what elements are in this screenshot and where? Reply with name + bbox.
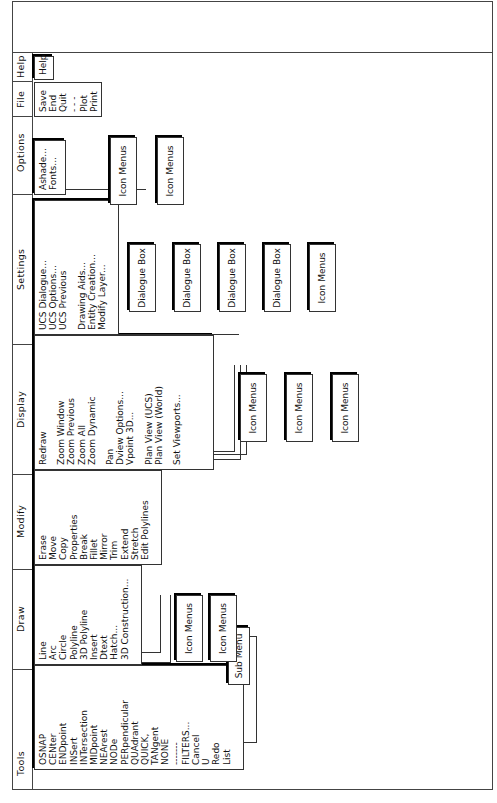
header-divider bbox=[12, 474, 32, 475]
menu-item[interactable]: PERpendicular bbox=[120, 670, 130, 765]
menu-separator: ------- bbox=[171, 670, 181, 765]
menu-hierarchy-diagram: Tools Draw Modify Display Settings Optio… bbox=[12, 0, 494, 790]
menu-item[interactable]: OSNAP bbox=[38, 670, 48, 765]
menu-item[interactable]: CENter bbox=[48, 670, 58, 765]
menu-title-modify[interactable]: Modify bbox=[15, 505, 26, 538]
menu-item[interactable]: Extend bbox=[120, 475, 130, 560]
modify-menu: Erase Move Copy Properties Break Fillet … bbox=[34, 470, 162, 565]
display-icon-menus-box-2[interactable]: Icon Menus bbox=[286, 374, 313, 442]
menu-title-display[interactable]: Display bbox=[15, 391, 26, 428]
menu-item[interactable]: Hatch... bbox=[109, 570, 119, 660]
menu-item[interactable]: Plan View (UCS) bbox=[144, 340, 154, 465]
options-icon-menus-box-1[interactable]: Icon Menus bbox=[110, 137, 137, 205]
connector bbox=[170, 595, 171, 663]
menu-item[interactable]: NODe bbox=[109, 670, 119, 765]
menu-item[interactable]: Print bbox=[89, 87, 99, 112]
menu-item[interactable]: Fonts... bbox=[48, 145, 58, 190]
menu-item[interactable]: 3D Construction... bbox=[120, 570, 130, 660]
menu-title-help[interactable]: Help bbox=[15, 55, 26, 78]
menu-item[interactable]: Insert bbox=[89, 570, 99, 660]
menu-item[interactable]: Mirror bbox=[99, 475, 109, 560]
menu-item[interactable]: Move bbox=[48, 475, 58, 560]
menu-title-settings[interactable]: Settings bbox=[15, 249, 26, 290]
menu-item[interactable]: Cancel bbox=[191, 670, 201, 765]
menu-item[interactable]: Zoom Previous bbox=[66, 340, 76, 465]
connector bbox=[214, 454, 246, 455]
settings-dialogue-box-3[interactable]: Dialogue Box bbox=[219, 244, 246, 312]
menu-item[interactable]: Help bbox=[38, 61, 48, 75]
menu-item[interactable]: Zoom All bbox=[77, 340, 87, 465]
menu-item[interactable]: Stretch bbox=[130, 475, 140, 560]
menu-item[interactable]: Redo bbox=[211, 670, 221, 765]
menu-item[interactable]: Polyline bbox=[69, 570, 79, 660]
menu-item[interactable]: U bbox=[201, 670, 211, 765]
connector bbox=[244, 742, 256, 743]
menu-item[interactable]: TANgent bbox=[150, 670, 160, 765]
top-blank-divider bbox=[12, 52, 493, 53]
menu-item[interactable]: Redraw bbox=[38, 340, 48, 465]
menu-item[interactable]: NONE bbox=[160, 670, 170, 765]
menu-item[interactable]: Plan View (World) bbox=[154, 340, 164, 465]
menu-item[interactable]: Erase bbox=[38, 475, 48, 560]
menu-item[interactable]: Zoom Dynamic bbox=[87, 340, 97, 465]
menu-item[interactable]: UCS Dialogue... bbox=[38, 205, 48, 330]
menu-item[interactable]: MIDpoint bbox=[89, 670, 99, 765]
settings-dialogue-box-1[interactable]: Dialogue Box bbox=[129, 244, 156, 312]
file-menu: Save End Quit - - - Plot Print bbox=[34, 82, 102, 117]
menu-item[interactable]: Properties bbox=[69, 475, 79, 560]
draw-icon-menus-box-2[interactable]: Icon Menus bbox=[210, 595, 237, 662]
options-menu: Ashade... Fonts... bbox=[34, 140, 66, 195]
options-icon-menus-box-2[interactable]: Icon Menus bbox=[157, 137, 184, 205]
menu-item[interactable]: Dtext bbox=[99, 570, 109, 660]
connector bbox=[214, 459, 240, 460]
menu-item[interactable]: ENDpoint bbox=[58, 670, 68, 765]
menu-item[interactable]: Modify Layer... bbox=[97, 205, 107, 330]
menu-item[interactable]: Fillet bbox=[89, 475, 99, 560]
menu-item[interactable]: UCS Options... bbox=[48, 205, 58, 330]
menu-title-options[interactable]: Options bbox=[15, 133, 26, 172]
header-divider bbox=[12, 669, 32, 670]
menu-item[interactable]: Pan bbox=[105, 340, 115, 465]
tools-menu: OSNAP CENter ENDpoint INSert INTersectio… bbox=[34, 665, 244, 770]
menu-item[interactable]: Circle bbox=[58, 570, 68, 660]
settings-icon-menus-box[interactable]: Icon Menus bbox=[309, 244, 336, 312]
display-icon-menus-box-3[interactable]: Icon Menus bbox=[332, 374, 359, 442]
menu-item[interactable]: Arc bbox=[48, 570, 58, 660]
menu-item[interactable]: Dview Options... bbox=[115, 340, 125, 465]
menu-item[interactable]: Trim bbox=[109, 475, 119, 560]
menu-title-file[interactable]: File bbox=[15, 91, 26, 108]
menu-item[interactable]: Save bbox=[38, 87, 48, 112]
menu-item[interactable]: INTersection bbox=[79, 670, 89, 765]
menu-item[interactable]: Zoom Window bbox=[56, 340, 66, 465]
menu-item[interactable]: Plot bbox=[79, 87, 89, 112]
menu-item[interactable]: Quit bbox=[58, 87, 68, 112]
settings-dialogue-box-4[interactable]: Dialogue Box bbox=[264, 244, 291, 312]
header-divider bbox=[12, 344, 32, 345]
menu-item[interactable]: Entity Creation... bbox=[87, 205, 97, 330]
menu-item[interactable]: QUAdrant bbox=[130, 670, 140, 765]
menu-item[interactable]: Copy bbox=[58, 475, 68, 560]
menu-title-draw[interactable]: Draw bbox=[15, 606, 26, 632]
connector bbox=[142, 662, 170, 663]
menu-item[interactable]: FILTERS... bbox=[181, 670, 191, 765]
menu-item[interactable]: Drawing Aids... bbox=[77, 205, 87, 330]
connector bbox=[142, 652, 160, 653]
draw-icon-menus-box-1[interactable]: Icon Menus bbox=[176, 595, 203, 662]
menu-item[interactable]: Edit Polylines bbox=[140, 475, 150, 560]
menu-title-tools[interactable]: Tools bbox=[15, 751, 26, 776]
menu-item[interactable]: QUICK, bbox=[140, 670, 150, 765]
connector bbox=[234, 365, 235, 452]
display-menu: Redraw Zoom Window Zoom Previous Zoom Al… bbox=[34, 335, 214, 470]
display-icon-menus-box-1[interactable]: Icon Menus bbox=[240, 374, 267, 442]
menu-item[interactable]: Break bbox=[79, 475, 89, 560]
menu-item[interactable]: UCS Previous bbox=[58, 205, 68, 330]
menu-item[interactable]: NEArest bbox=[99, 670, 109, 765]
menu-item[interactable]: End bbox=[48, 87, 58, 112]
menu-item[interactable]: Ashade... bbox=[38, 145, 48, 190]
menu-item[interactable]: Set Viewports... bbox=[172, 340, 182, 465]
menu-item[interactable]: Vpoint 3D... bbox=[125, 340, 135, 465]
settings-dialogue-box-2[interactable]: Dialogue Box bbox=[174, 244, 201, 312]
menu-item[interactable]: 3D Polyline bbox=[79, 570, 89, 660]
menu-item[interactable]: INSert bbox=[69, 670, 79, 765]
menu-item[interactable]: Line bbox=[38, 570, 48, 660]
